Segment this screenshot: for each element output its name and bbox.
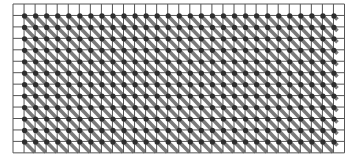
intersection-dot [287, 94, 292, 99]
intersection-dot [33, 94, 38, 99]
diagonal-stroke [191, 74, 201, 84]
diagonal-stroke [102, 108, 112, 118]
intersection-dot [298, 128, 303, 133]
diagonal-stroke [25, 120, 35, 130]
diagonal-stroke [125, 97, 135, 107]
diagonal-stroke [158, 142, 168, 152]
diagonal-stroke [113, 85, 123, 95]
intersection-dot [221, 128, 226, 133]
diagonal-stroke [125, 120, 135, 130]
diagonal-stroke [69, 142, 79, 152]
diagonal-stroke [58, 131, 68, 141]
diagonal-stroke [91, 108, 101, 118]
diagonal-stroke [25, 85, 35, 95]
diagonal-stroke [80, 142, 90, 152]
intersection-dot [265, 48, 270, 53]
diagonal-stroke [25, 108, 35, 118]
intersection-dot [199, 116, 204, 121]
intersection-dot [177, 48, 182, 53]
intersection-dot [66, 36, 71, 41]
intersection-dot [33, 13, 38, 18]
intersection-dot [309, 116, 314, 121]
intersection-dot [276, 116, 281, 121]
diagonal-stroke [290, 120, 300, 130]
intersection-dot [77, 82, 82, 87]
diagonal-stroke [91, 51, 101, 61]
diagonal-stroke [235, 120, 245, 130]
diagonal-stroke [312, 108, 322, 118]
intersection-dot [77, 71, 82, 76]
diagonal-stroke [58, 28, 68, 38]
diagonal-stroke [147, 131, 157, 141]
intersection-dot [298, 25, 303, 30]
diagonal-stroke [202, 39, 212, 49]
intersection-dot [177, 105, 182, 110]
intersection-dot [276, 25, 281, 30]
diagonal-stroke [47, 131, 57, 141]
diagonal-stroke [257, 120, 267, 130]
diagonal-stroke [158, 16, 168, 26]
diagonal-stroke [158, 51, 168, 61]
intersection-dot [177, 13, 182, 18]
intersection-dot [221, 116, 226, 121]
diagonal-stroke [169, 85, 179, 95]
diagonal-stroke [58, 108, 68, 118]
intersection-dot [44, 128, 49, 133]
intersection-dot [166, 71, 171, 76]
intersection-dot [199, 13, 204, 18]
intersection-dot [99, 36, 104, 41]
diagonal-stroke [323, 142, 333, 152]
intersection-dot [155, 36, 160, 41]
diagonal-stroke [125, 85, 135, 95]
diagonal-stroke [290, 28, 300, 38]
diagonal-stroke [257, 85, 267, 95]
intersection-dot [199, 25, 204, 30]
diagonal-stroke [91, 62, 101, 72]
diagonal-stroke [224, 51, 234, 61]
intersection-dot [298, 94, 303, 99]
intersection-dot [144, 48, 149, 53]
diagonal-stroke [102, 28, 112, 38]
diagonal-stroke [158, 28, 168, 38]
diagonal-stroke [91, 28, 101, 38]
intersection-dot [276, 105, 281, 110]
intersection-dot [22, 48, 27, 53]
diagonal-stroke [279, 39, 289, 49]
intersection-dot [265, 128, 270, 133]
intersection-dot [22, 139, 27, 144]
diagonal-stroke [279, 97, 289, 107]
intersection-dot [232, 25, 237, 30]
diagonal-stroke [246, 62, 256, 72]
diagonal-stroke [58, 51, 68, 61]
diagonal-stroke [69, 85, 79, 95]
intersection-dot [254, 105, 259, 110]
intersection-dot [199, 128, 204, 133]
diagonal-stroke [125, 62, 135, 72]
intersection-dot [243, 13, 248, 18]
intersection-dot [166, 48, 171, 53]
intersection-dot [110, 139, 115, 144]
diagonal-stroke [47, 74, 57, 84]
intersection-dot [121, 94, 126, 99]
intersection-dot [309, 71, 314, 76]
intersection-dot [276, 94, 281, 99]
intersection-dot [188, 71, 193, 76]
diagonal-stroke [246, 97, 256, 107]
diagonal-stroke [279, 85, 289, 95]
intersection-dot [144, 128, 149, 133]
intersection-dot [309, 59, 314, 64]
diagonal-stroke [224, 97, 234, 107]
diagonal-stroke [136, 74, 146, 84]
intersection-dot [320, 94, 325, 99]
intersection-dot [88, 71, 93, 76]
intersection-dot [276, 36, 281, 41]
intersection-dot [320, 116, 325, 121]
diagonal-stroke [25, 16, 35, 26]
diagonal-stroke [202, 28, 212, 38]
diagonal-stroke [125, 51, 135, 61]
intersection-dot [77, 13, 82, 18]
intersection-dot [221, 94, 226, 99]
diagonal-stroke [169, 28, 179, 38]
intersection-dot [166, 36, 171, 41]
intersection-dot [199, 94, 204, 99]
